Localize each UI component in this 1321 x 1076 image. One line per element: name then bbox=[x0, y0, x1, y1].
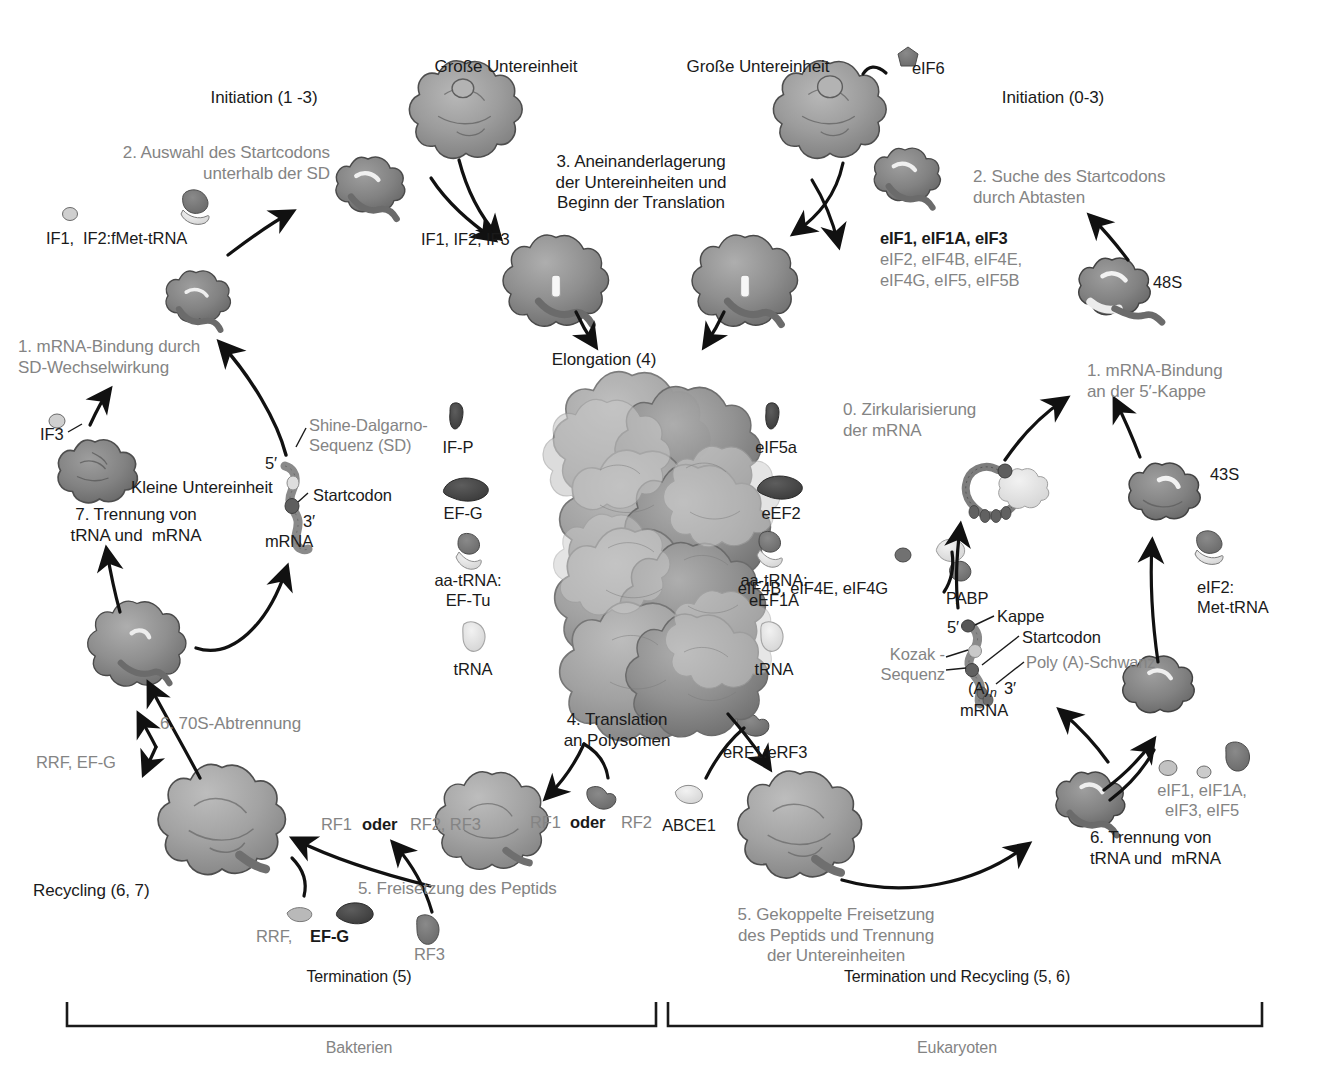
blob-80s-start-complex bbox=[692, 235, 798, 326]
blob-small-subunit-bacteria bbox=[58, 440, 137, 503]
blob-30s-initiation-complex bbox=[336, 157, 405, 219]
label-eif-recycle-factors: eIF1, eIF1A, eIF3, eIF5 bbox=[1157, 780, 1247, 820]
blob-trna-left bbox=[463, 622, 485, 652]
label-rrf-efg-top: RRF, EF-G bbox=[36, 752, 116, 772]
arrow-step7-to-small-subunit bbox=[107, 552, 120, 612]
label-termination-eukaryote: Termination und Recycling (5, 6) bbox=[844, 967, 1070, 987]
label-init-factors-line3: eIF4G, eIF5, eIF5B bbox=[880, 270, 1019, 290]
blob-abce1 bbox=[675, 785, 702, 803]
blob-eif5a bbox=[766, 403, 779, 429]
label-bacteria-step4: 4. Translation an Polysomen bbox=[564, 710, 671, 751]
blob-80s-peptide-release bbox=[738, 771, 862, 878]
blob-eif-recycle-factors bbox=[1159, 742, 1250, 778]
label-48s: 48S bbox=[1153, 272, 1182, 292]
arrow-40s-to-43s bbox=[1151, 544, 1158, 662]
label-eukaryoten: Eukaryoten bbox=[917, 1038, 997, 1058]
label-eif2-met-trna: eIF2: Met-tRNA bbox=[1197, 577, 1269, 617]
blob-rf1-rf2 bbox=[587, 787, 616, 810]
label-init-factors-line2: eIF2, eIF4B, eIF4E, bbox=[880, 249, 1022, 269]
label-bacteria-step2: 2. Auswahl des Startcodons unterhalb der… bbox=[123, 143, 330, 184]
label-bakterien: Bakterien bbox=[326, 1038, 393, 1058]
label-trna-left: tRNA bbox=[453, 659, 492, 679]
label-eukaryote-step6: 6. Trennung von tRNA und mRNA bbox=[1090, 828, 1221, 869]
label-bacteria-step7: 7. Trennung von tRNA und mRNA bbox=[71, 505, 202, 546]
label-eukaryote-step5: 5. Gekoppelte Freisetzung des Peptids un… bbox=[738, 905, 935, 967]
label-trna-right: tRNA bbox=[754, 659, 793, 679]
blob-if2-fmet-trna bbox=[181, 190, 209, 225]
label-oder-left: oder bbox=[362, 814, 397, 834]
arrow-rrf-efg-in bbox=[292, 858, 305, 896]
arrow-large-subunit-join-a bbox=[459, 160, 498, 236]
label-if3: IF3 bbox=[40, 424, 64, 444]
arrow-48s-to-step2 bbox=[1092, 218, 1128, 260]
arrow-step6-euk bbox=[1104, 742, 1152, 790]
blob-70s-post-termination bbox=[88, 601, 186, 686]
blob-rf3 bbox=[417, 915, 439, 945]
arrow-70s-dissoc-up bbox=[140, 717, 156, 747]
label-startcodon-bacteria: Startcodon bbox=[313, 485, 392, 505]
label-rf3: RF3 bbox=[414, 944, 445, 964]
blob-efg-bacteria bbox=[336, 903, 373, 924]
label-3prime-eukaryote: 3′ bbox=[1004, 678, 1016, 698]
label-rf2-mid: RF2 bbox=[621, 812, 652, 832]
label-kozak: Kozak - Sequenz bbox=[881, 644, 945, 684]
blob-48s-upper bbox=[874, 148, 940, 207]
label-bacteria-step1: 1. mRNA-Bindung durch SD-Wechselwirkung bbox=[18, 337, 200, 378]
label-43s: 43S bbox=[1210, 464, 1239, 484]
label-eukaryote-step2: 2. Suche des Startcodons durch Abtasten bbox=[973, 167, 1165, 208]
arrow-eif4-join bbox=[944, 552, 953, 592]
blob-rrf-bacteria bbox=[287, 908, 312, 922]
blob-70s-recycling-complex bbox=[158, 764, 285, 874]
arrow-mrna-recycle-arc bbox=[196, 570, 286, 650]
label-eif6: eIF6 bbox=[912, 58, 945, 78]
arrow-mrna-to-30s bbox=[222, 345, 286, 455]
label-if1-if2-fmet-trna: IF1, IF2:fMet-tRNA bbox=[46, 228, 187, 248]
label-3prime-bacteria: 3′ bbox=[303, 511, 315, 531]
bracket-bacteria bbox=[67, 1002, 656, 1026]
label-eukaryote-step1: 1. mRNA-Bindung an der 5′-Kappe bbox=[1087, 361, 1223, 402]
arrow-60s-join-b bbox=[812, 180, 838, 243]
label-init-factors-line1: eIF1, eIF1A, eIF3 bbox=[880, 228, 1008, 248]
label-large-subunit-bacteria: Große Untereinheit bbox=[435, 57, 578, 78]
arrow-eif6-release bbox=[863, 67, 886, 74]
bracket-group bbox=[67, 1002, 1262, 1026]
arrow-70s-dissoc-down bbox=[145, 747, 156, 771]
bracket-eukaryote bbox=[668, 1002, 1262, 1026]
label-aa-trna-eftu: aa-tRNA: EF-Tu bbox=[434, 570, 501, 610]
label-oder-mid: oder bbox=[570, 812, 605, 832]
label-termination-bacteria: Termination (5) bbox=[306, 967, 411, 987]
label-eif4-group: eIF4B, eIF4E, eIF4G bbox=[738, 578, 888, 598]
blob-post-termination-eukaryote bbox=[1056, 772, 1125, 835]
arrow-60s-join-a bbox=[796, 163, 843, 232]
label-efg-elongation: EF-G bbox=[443, 503, 482, 523]
label-rf1-mid: RF1 bbox=[530, 812, 561, 832]
label-recycling-bacteria: Recycling (6, 7) bbox=[33, 881, 150, 902]
label-rf1-left: RF1 bbox=[321, 814, 352, 834]
label-rrf-bottom: RRF, bbox=[256, 926, 292, 946]
label-5prime-bacteria: 5′ bbox=[265, 453, 277, 473]
blob-aa-trna-eftu bbox=[456, 533, 481, 569]
blob-30s-mrna-complex bbox=[166, 271, 230, 330]
label-5prime-eukaryote: 5′ bbox=[947, 617, 959, 637]
blob-eef2 bbox=[757, 476, 802, 499]
label-bacteria-step5: 5. Freisetzung des Peptids bbox=[358, 879, 557, 900]
label-abce1: ABCE1 bbox=[662, 815, 716, 835]
heading-initiation-bacteria: Initiation (1 -3) bbox=[211, 88, 318, 109]
label-elongation: Elongation (4) bbox=[552, 350, 656, 371]
arrow-postterm-to-mrna bbox=[1062, 712, 1108, 762]
arrow-80s-to-elongation bbox=[706, 312, 724, 344]
label-startcodon-eukaryote: Startcodon bbox=[1022, 627, 1101, 647]
blob-efg-elongation bbox=[443, 478, 488, 501]
label-eukaryote-step0: 0. Zirkularisierung der mRNA bbox=[843, 400, 976, 441]
heading-initiation-eukaryote: Initiation (0-3) bbox=[1002, 88, 1104, 109]
arrow-43s-to-step1 bbox=[1116, 402, 1140, 457]
label-eef2: eEF2 bbox=[761, 503, 800, 523]
blob-eif2-met-trna bbox=[1195, 531, 1223, 565]
blob-erf1-erf3 bbox=[737, 713, 769, 736]
label-eif5a: eIF5a bbox=[755, 437, 797, 457]
arrow-if3-to-step1 bbox=[90, 392, 108, 425]
blob-eif4-group bbox=[895, 539, 965, 562]
circularized-mrna bbox=[966, 464, 1049, 523]
blob-if1 bbox=[63, 208, 78, 221]
label-polya-n: (A)n bbox=[968, 678, 997, 701]
